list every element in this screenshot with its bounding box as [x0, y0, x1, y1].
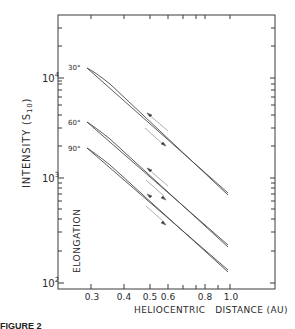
- x-tick-labels: 0.3 0.4 0.5 0.6 0.8 1.0: [85, 292, 239, 302]
- xtick-0.6: 0.6: [161, 292, 176, 302]
- ytick-1e4: 104: [42, 71, 60, 84]
- xtick-0.8: 0.8: [198, 292, 213, 302]
- arrow-icon: [161, 196, 166, 200]
- plot-frame: [58, 15, 275, 289]
- left-ticks: [58, 28, 64, 283]
- arrow-icon: [161, 221, 166, 225]
- xtick-0.3: 0.3: [85, 292, 99, 302]
- curve-label-90: 90°: [68, 145, 80, 153]
- curve-60: [87, 122, 228, 247]
- x-axis-label: HELIOCENTRIC DISTANCE (AU): [134, 305, 288, 315]
- y-tick-labels: 104 103 102: [42, 71, 60, 289]
- curve-label-30: 30°: [68, 64, 80, 72]
- figure-label: FIGURE 2: [0, 321, 42, 329]
- arrow-icon: [147, 194, 152, 198]
- curve-label-60: 60°: [68, 119, 80, 127]
- bottom-ticks: [91, 284, 230, 289]
- curve-30: [87, 68, 228, 195]
- figure-caption: FIGURE 2: [0, 321, 295, 329]
- ytick-1e2: 102: [42, 276, 59, 289]
- curve-90: [87, 148, 228, 272]
- elongation-label: ELONGATION: [72, 208, 82, 273]
- ytick-1e3: 103: [42, 171, 59, 184]
- xtick-0.5: 0.5: [143, 292, 157, 302]
- chart: 104 103 102 0.3 0.4 0.5 0.6 0.8 1.0 HELI…: [0, 0, 295, 329]
- y-axis-label: INTENSITY (S10): [21, 98, 34, 188]
- top-ticks: [91, 15, 230, 19]
- right-ticks: [270, 28, 275, 283]
- xtick-0.4: 0.4: [117, 292, 132, 302]
- xtick-1.0: 1.0: [224, 292, 239, 302]
